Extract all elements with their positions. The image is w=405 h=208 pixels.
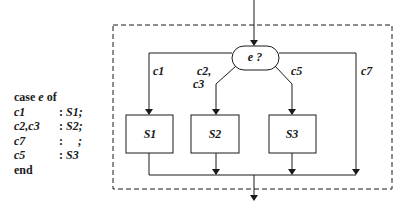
box-label-s1: S1 (144, 127, 157, 141)
branch-label-c3: c3 (193, 77, 204, 91)
box-label-s3: S3 (286, 127, 299, 141)
box-label-s2: S2 (209, 127, 222, 141)
flowchart: e ? c1 c2, c3 c5 c7 S1 S2 S3 (0, 0, 405, 208)
branch-c5 (275, 66, 292, 114)
branch-label-c5: c5 (291, 64, 302, 78)
branch-label-c7: c7 (361, 64, 373, 78)
decision-label: e ? (248, 50, 262, 64)
branch-c2-c3 (216, 66, 236, 114)
branch-c1 (149, 53, 232, 114)
branch-label-c1: c1 (153, 64, 164, 78)
branch-label-c2: c2, (197, 64, 211, 78)
